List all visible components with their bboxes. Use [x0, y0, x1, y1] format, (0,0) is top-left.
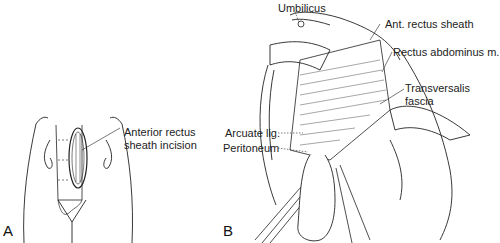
panel-letter-a: A: [3, 222, 13, 239]
label-arcuate-lig: Arcuate lig.: [225, 127, 280, 140]
label-line-2: sheath incision: [124, 139, 197, 152]
label-transversalis-fascia: Transversalis fascia: [405, 82, 470, 108]
label-line-2: fascia: [405, 95, 470, 108]
label-peritoneum: Peritoneum: [223, 142, 279, 155]
panel-b-illustration: [0, 0, 500, 243]
label-line-1: Transversalis: [405, 82, 470, 95]
label-anterior-rectus-sheath-incision: Anterior rectus sheath incision: [124, 126, 197, 152]
label-ant-rectus-sheath: Ant. rectus sheath: [385, 18, 474, 31]
label-line-1: Anterior rectus: [124, 126, 197, 139]
anatomical-figure: Anterior rectus sheath incision A Umbili…: [0, 0, 500, 243]
label-umbilicus: Umbilicus: [278, 2, 326, 15]
panel-letter-b: B: [223, 222, 233, 239]
label-rectus-abdominus: Rectus abdominus m.: [393, 46, 499, 59]
